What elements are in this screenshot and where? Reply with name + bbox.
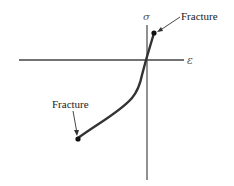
bottom-fracture-label: Fracture (52, 98, 89, 110)
stress-strain-diagram: ε σ Fracture Fracture (0, 0, 234, 186)
stress-axis-label: σ (143, 11, 151, 22)
bottom-fracture-arrow (73, 111, 77, 133)
top-fracture-arrow (159, 17, 180, 31)
top-arrowhead-icon (157, 27, 163, 32)
bottom-fracture-point (75, 136, 80, 141)
stress-strain-curve (78, 33, 154, 138)
top-fracture-point (151, 30, 156, 35)
bottom-arrowhead-icon (74, 130, 79, 136)
strain-axis-label: ε (187, 54, 193, 67)
top-fracture-label: Fracture (181, 10, 218, 22)
